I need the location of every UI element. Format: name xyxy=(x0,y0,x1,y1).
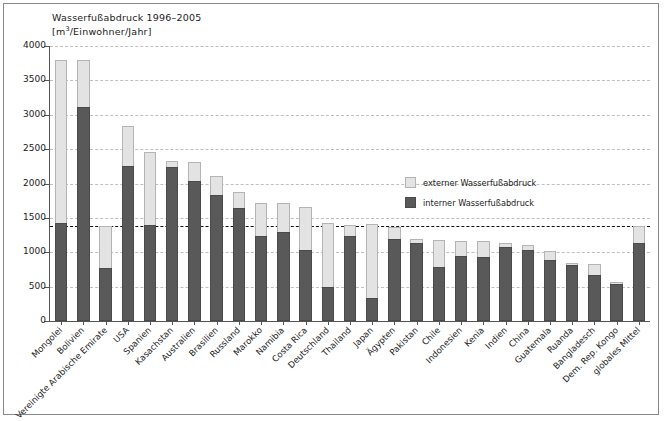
y-axis-tick-label: 3000 xyxy=(23,109,46,119)
bar-stack[interactable] xyxy=(433,240,446,321)
x-axis-label: Indien xyxy=(483,325,509,351)
legend-label-intern: interner Wasserfußabdruck xyxy=(423,198,534,208)
bar-stack[interactable] xyxy=(99,226,112,321)
bar-segment-extern xyxy=(633,226,646,244)
bar-segment-intern xyxy=(588,275,601,321)
bar-segment-intern xyxy=(55,223,68,321)
bar-stack[interactable] xyxy=(188,162,201,322)
bar-segment-intern xyxy=(544,260,557,321)
bar-stack[interactable] xyxy=(633,226,646,321)
bar-segment-extern xyxy=(455,241,468,257)
bar-segment-intern xyxy=(77,107,90,322)
bar-segment-extern xyxy=(233,192,246,208)
bar-segment-intern xyxy=(322,287,335,321)
bar-segment-intern xyxy=(633,243,646,321)
chart-frame: Wasserfußabdruck 1996–2005 [m3/Einwohner… xyxy=(3,3,659,415)
bar-segment-extern xyxy=(122,126,135,167)
bar-stack[interactable] xyxy=(233,192,246,321)
x-axis-labels: MongoleiBolivienVereinigte Arabische Emi… xyxy=(49,323,649,418)
bar-segment-extern xyxy=(344,225,357,236)
bar-segment-intern xyxy=(410,243,423,321)
bar-segment-intern xyxy=(433,267,446,321)
bar-segment-extern xyxy=(544,251,557,260)
chart-legend: externer Wasserfußabdruck interner Wasse… xyxy=(405,177,536,217)
bar-stack[interactable] xyxy=(388,227,401,321)
bar-stack[interactable] xyxy=(544,251,557,321)
bar-segment-intern xyxy=(233,208,246,321)
bar-segment-extern xyxy=(388,227,401,239)
y-axis-tick-label: 500 xyxy=(29,281,46,291)
bar-segment-intern xyxy=(455,256,468,321)
bar-stack[interactable] xyxy=(122,126,135,321)
bar-stack[interactable] xyxy=(255,203,268,321)
bar-stack[interactable] xyxy=(77,60,90,321)
bar-stack[interactable] xyxy=(144,152,157,321)
bar-stack[interactable] xyxy=(477,241,490,321)
legend-label-extern: externer Wasserfußabdruck xyxy=(423,178,536,188)
bar-stack[interactable] xyxy=(455,241,468,321)
bar-stack[interactable] xyxy=(344,225,357,321)
bar-segment-intern xyxy=(122,166,135,321)
legend-item-intern: interner Wasserfußabdruck xyxy=(405,197,536,208)
bar-segment-intern xyxy=(477,257,490,321)
bar-segment-intern xyxy=(210,195,223,322)
bar-segment-extern xyxy=(477,241,490,257)
bar-segment-intern xyxy=(277,232,290,321)
bar-stack[interactable] xyxy=(610,282,623,321)
bar-stack[interactable] xyxy=(55,60,68,321)
bar-series-container xyxy=(50,46,650,321)
bar-segment-extern xyxy=(366,224,379,298)
x-axis-label: Mongolei xyxy=(30,325,65,360)
bar-stack[interactable] xyxy=(299,207,312,321)
bar-segment-intern xyxy=(522,250,535,322)
bar-stack[interactable] xyxy=(499,243,512,321)
x-axis-label: Vereinigte Arabische Emirate xyxy=(13,325,108,420)
bar-segment-extern xyxy=(299,207,312,250)
bar-stack[interactable] xyxy=(210,176,223,321)
bar-segment-extern xyxy=(255,203,268,235)
bar-segment-extern xyxy=(322,223,335,287)
bar-segment-intern xyxy=(99,268,112,321)
legend-swatch-extern-icon xyxy=(405,177,416,188)
bar-segment-extern xyxy=(99,226,112,268)
chart-subtitle: [m3/Einwohner/Jahr] xyxy=(52,25,152,37)
bar-segment-intern xyxy=(188,181,201,321)
bar-stack[interactable] xyxy=(566,263,579,321)
y-axis-tick-label: 1500 xyxy=(23,212,46,222)
plot-area: 05001000150020002500300035004000 externe… xyxy=(49,46,650,322)
bar-segment-intern xyxy=(499,247,512,321)
bar-segment-extern xyxy=(55,60,68,223)
bar-stack[interactable] xyxy=(588,264,601,321)
bar-segment-intern xyxy=(344,236,357,321)
bar-segment-intern xyxy=(144,225,157,321)
bar-segment-intern xyxy=(255,236,268,321)
bar-segment-intern xyxy=(610,284,623,321)
bar-segment-extern xyxy=(144,152,157,225)
y-axis-tick-label: 2000 xyxy=(23,178,46,188)
bar-stack[interactable] xyxy=(166,161,179,321)
bar-segment-intern xyxy=(388,239,401,321)
bar-stack[interactable] xyxy=(522,245,535,321)
y-axis-tick-label: 0 xyxy=(40,315,46,325)
bar-segment-extern xyxy=(433,240,446,267)
bar-stack[interactable] xyxy=(410,239,423,321)
bar-segment-extern xyxy=(210,176,223,195)
bar-segment-extern xyxy=(277,203,290,231)
bar-segment-extern xyxy=(77,60,90,107)
legend-swatch-intern-icon xyxy=(405,197,416,208)
y-axis-tick-label: 1000 xyxy=(23,246,46,256)
y-axis-tick-label: 2500 xyxy=(23,143,46,153)
bar-segment-intern xyxy=(166,167,179,321)
y-axis-tick-label: 3500 xyxy=(23,74,46,84)
legend-item-extern: externer Wasserfußabdruck xyxy=(405,177,536,188)
bar-segment-intern xyxy=(366,298,379,321)
bar-segment-extern xyxy=(588,264,601,275)
bar-segment-intern xyxy=(299,250,312,322)
bar-segment-intern xyxy=(566,265,579,321)
bar-stack[interactable] xyxy=(322,223,335,321)
bar-stack[interactable] xyxy=(366,224,379,321)
bar-stack[interactable] xyxy=(277,203,290,321)
x-axis-label: Kenia xyxy=(463,325,487,349)
y-axis-tick-label: 4000 xyxy=(23,40,46,50)
bar-segment-extern xyxy=(188,162,201,181)
